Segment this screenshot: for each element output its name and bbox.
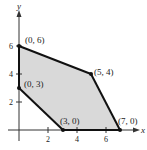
y-axis-label: y [16, 1, 21, 11]
x-tick-label: 2 [46, 135, 50, 144]
y-tick-label: 2 [9, 98, 13, 107]
vertex-dot [17, 86, 21, 90]
vertex-label: (5, 4) [94, 67, 114, 77]
feasible-region-diagram: x y 2 4 6 2 4 6 [0, 0, 147, 150]
vertex-label: (3, 0) [60, 116, 80, 126]
y-axis-arrow-icon [17, 10, 22, 17]
x-axis-arrow-icon [133, 128, 140, 133]
y-tick-label: 4 [9, 70, 13, 79]
x-tick-label: 4 [75, 135, 79, 144]
vertex-dot [118, 128, 122, 132]
x-tick-label: 6 [104, 135, 108, 144]
vertex-label: (0, 3) [24, 79, 44, 89]
vertex-dot [17, 44, 21, 48]
vertex-dot [89, 72, 93, 76]
vertex-label: (0, 6) [25, 35, 45, 45]
vertex-dot [61, 128, 65, 132]
vertex-label: (7, 0) [118, 116, 138, 126]
y-tick-label: 6 [9, 42, 13, 51]
x-axis-label: x [140, 125, 145, 135]
